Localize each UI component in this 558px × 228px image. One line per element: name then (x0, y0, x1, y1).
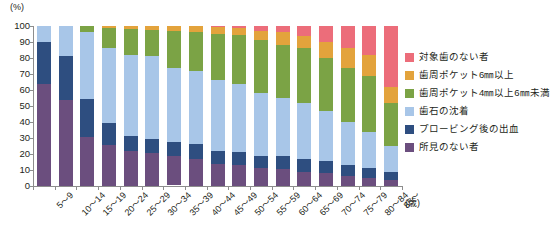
bar-segment (167, 68, 181, 142)
bar-75-79 (341, 26, 355, 186)
x-axis-tick-mark (76, 187, 77, 190)
bar-segment (319, 42, 333, 58)
bar-segment (362, 76, 376, 132)
bar-segment (59, 26, 73, 56)
bar-segment (384, 26, 398, 87)
legend-item-no_findings: 所見のない者 (405, 138, 550, 156)
legend-swatch-icon (405, 143, 414, 152)
bar-segment (341, 68, 355, 122)
bar-segment (297, 26, 311, 36)
y-axis-tick-label: 60 (0, 85, 30, 95)
x-axis-tick-label: 55～59 (274, 190, 302, 218)
y-axis-tick-label: 40 (0, 117, 30, 127)
bar-segment (189, 32, 203, 70)
bar-segment (319, 58, 333, 111)
bar-segment (276, 45, 290, 98)
bar-segment (384, 172, 398, 180)
bar-segment (232, 152, 246, 165)
bar-segment (362, 55, 376, 76)
bar-70-74 (319, 26, 333, 186)
bar-segment (37, 42, 51, 84)
bar-segment (297, 103, 311, 159)
plot-area (33, 26, 402, 186)
bar-segment (80, 99, 94, 137)
bar-segment (297, 172, 311, 186)
bar-segment (319, 173, 333, 186)
bar-segment (276, 98, 290, 156)
x-axis-tick-label: 40～44 (209, 190, 237, 218)
legend: 対象歯のない者歯周ポケット6㎜以上歯周ポケット4㎜以上6㎜未満歯石の沈着プロービ… (405, 48, 550, 156)
bar-segment (211, 80, 225, 150)
bar-segment (384, 180, 398, 186)
bar-segment (145, 153, 159, 186)
bar-segment (319, 161, 333, 173)
bar-5-9 (37, 26, 51, 186)
bar-segment (80, 32, 94, 98)
y-axis-unit-label: (%) (10, 2, 24, 12)
bar-segment (167, 142, 181, 156)
bar-50-54 (232, 26, 246, 186)
legend-item-bleeding_on_probing: プロービング後の出血 (405, 120, 550, 138)
legend-swatch-icon (405, 53, 414, 62)
bar-segment (362, 26, 376, 55)
x-axis-line (33, 186, 403, 187)
bar-segment (189, 159, 203, 186)
x-axis-tick-label: 5～9 (54, 190, 75, 211)
bar-segment (232, 165, 246, 186)
x-axis-tick-mark (33, 187, 34, 190)
legend-item-label: 対象歯のない者 (419, 52, 489, 62)
bar-segment (37, 84, 51, 186)
stacked-bar-chart: (%) 1009080706050403020100 5～910～1415～19… (0, 0, 558, 228)
bar-65-69 (297, 26, 311, 186)
y-axis-tick-label: 80 (0, 53, 30, 63)
bar-segment (211, 27, 225, 34)
bar-40-44 (189, 26, 203, 186)
x-axis-tick-label: 70～74 (340, 190, 368, 218)
bar-segment (254, 156, 268, 169)
legend-swatch-icon (405, 71, 414, 80)
bar-segment (384, 146, 398, 172)
bar-segment (384, 87, 398, 103)
bar-segment (189, 71, 203, 145)
bar-30-34 (145, 26, 159, 186)
bar-45-49 (211, 26, 225, 186)
bar-segment (362, 132, 376, 169)
bar-segment (362, 168, 376, 178)
y-axis-tick-label: 0 (0, 181, 30, 191)
bar-segment (232, 35, 246, 84)
bar-segment (341, 48, 355, 67)
bar-85- (384, 26, 398, 186)
legend-swatch-icon (405, 89, 414, 98)
legend-item-label: 歯周ポケット4㎜以上6㎜未満 (419, 88, 550, 98)
bar-segment (341, 122, 355, 165)
bar-segment (297, 48, 311, 102)
bar-segment (124, 151, 138, 186)
bar-segment (37, 26, 51, 42)
bar-segment (276, 169, 290, 186)
bar-segment (59, 56, 73, 100)
bar-segment (102, 123, 116, 145)
legend-item-pocket_6mm_plus: 歯周ポケット6㎜以上 (405, 66, 550, 84)
bar-segment (319, 111, 333, 161)
bar-segment (254, 40, 268, 93)
bar-segment (211, 34, 225, 80)
bar-segment (167, 31, 181, 68)
x-axis-tick-label: 35～39 (188, 190, 216, 218)
bar-segment (319, 26, 333, 42)
bar-segment (254, 31, 268, 41)
bar-segment (167, 156, 181, 185)
y-axis-tick-label: 30 (0, 133, 30, 143)
bar-10-14 (59, 26, 73, 186)
legend-item-pocket_4_to_6mm: 歯周ポケット4㎜以上6㎜未満 (405, 84, 550, 102)
legend-swatch-icon (405, 125, 414, 134)
bar-segment (384, 103, 398, 146)
y-axis-tick-label: 50 (0, 101, 30, 111)
legend-swatch-icon (405, 107, 414, 116)
bar-segment (341, 176, 355, 186)
y-axis-tick-label: 90 (0, 37, 30, 47)
bar-segment (124, 29, 138, 55)
bar-segment (341, 165, 355, 176)
bar-segment (124, 55, 138, 137)
bar-segment (145, 30, 159, 56)
bar-segment (297, 36, 311, 49)
